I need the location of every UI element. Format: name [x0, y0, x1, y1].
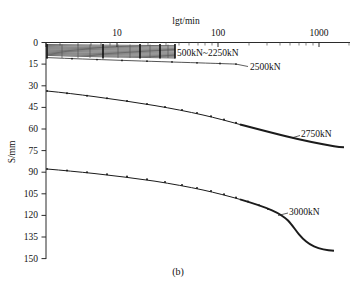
y-tick-label-45: 45 [29, 102, 39, 112]
y-axis-title: S/mm [7, 140, 17, 163]
y-tick-label-150: 150 [24, 254, 39, 264]
y-tick-label-60: 60 [29, 124, 39, 134]
chart-canvas: 10 100 1000 lgt/min 0 15 30 45 60 75 90 … [0, 0, 357, 288]
series-2750kN-markers [46, 90, 237, 124]
series-label-3000kN: 3000kN [289, 207, 320, 217]
y-axis-ticks [42, 43, 47, 259]
y-tick-label-105: 105 [24, 189, 39, 199]
figure-panel: 10 100 1000 lgt/min 0 15 30 45 60 75 90 … [0, 0, 357, 288]
y-tick-label-15: 15 [29, 59, 39, 69]
series-label-2500kN: 2500kN [250, 62, 281, 72]
series-2750kN [46, 90, 344, 147]
series-3000kN-markers [46, 168, 269, 210]
figure-caption: (b) [172, 266, 184, 278]
x-tick-label-10: 10 [112, 28, 122, 38]
series-2500kN [46, 57, 248, 67]
y-tick-label-30: 30 [29, 81, 39, 91]
x-axis-title: lgt/min [172, 16, 200, 26]
y-tick-label-75: 75 [29, 146, 39, 156]
series-band-500-2250 [47, 44, 175, 59]
y-tick-label-135: 135 [24, 232, 39, 242]
y-tick-label-120: 120 [24, 210, 39, 220]
series-label-2750kN: 2750kN [301, 129, 332, 139]
x-tick-label-100: 100 [211, 28, 226, 38]
y-tick-label-90: 90 [29, 167, 39, 177]
y-tick-label-0: 0 [33, 38, 38, 48]
series-label-500-2250: 500kN~2250kN [177, 48, 239, 58]
x-tick-label-1000: 1000 [310, 28, 329, 38]
